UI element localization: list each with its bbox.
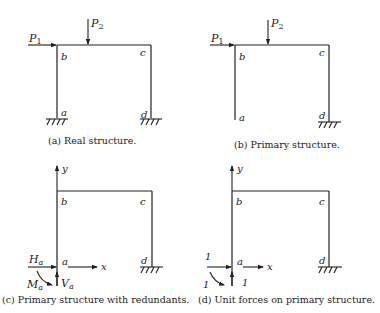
fixed-support-icon: [46, 119, 68, 125]
x-axis-label: x: [267, 261, 273, 272]
panel-d-caption: (d) Unit forces on primary structure.: [198, 294, 375, 305]
panel-d-unit-forces: y x 1 1 1 b c a d (d) Unit forces on pri…: [198, 163, 375, 305]
node-b-label: b: [239, 51, 245, 62]
redundant-h-label: Ha: [28, 253, 44, 267]
panel-b-primary-structure: P1 P2 b c a d (b) Primary structure.: [210, 17, 341, 150]
x-axis-label: x: [101, 261, 107, 272]
node-d-label: d: [319, 110, 325, 121]
load-p1-label: P1: [210, 32, 224, 46]
node-a-label: a: [61, 107, 67, 118]
load-p2-label: P2: [270, 17, 284, 31]
unit-v-label: 1: [242, 277, 248, 288]
panel-c-redundants: y x Ha Va Ma b c a d (c) Primary structu…: [2, 163, 189, 305]
y-axis-label: y: [236, 163, 243, 174]
node-a-label: a: [239, 112, 245, 123]
unit-m-label: 1: [203, 279, 209, 290]
panel-a-real-structure: P1 P2 b c a d (a) Real structure.: [28, 17, 162, 146]
node-c-label: c: [140, 196, 146, 207]
node-d-label: d: [141, 109, 147, 120]
node-b-label: b: [61, 196, 67, 207]
frame-members: [232, 191, 329, 286]
node-b-label: b: [236, 196, 242, 207]
node-a-label: a: [237, 256, 243, 267]
redundant-m-label: Ma: [26, 278, 43, 292]
panel-b-caption: (b) Primary structure.: [234, 139, 340, 150]
frame-members: [57, 45, 151, 118]
frame-members: [235, 45, 329, 122]
node-c-label: c: [319, 47, 325, 58]
load-p1-label: P1: [28, 32, 42, 46]
node-d-label: d: [141, 255, 147, 266]
panel-c-caption: (c) Primary structure with redundants.: [2, 294, 189, 305]
unit-m-arrow-icon: [210, 272, 224, 285]
frame-diagram: P1 P2 b c a d (a) Real structure. P1 P2 …: [0, 0, 380, 313]
unit-h-label: 1: [205, 251, 211, 262]
node-a-label: a: [62, 256, 68, 267]
redundant-v-label: Va: [61, 277, 74, 291]
fixed-support-icon: [140, 267, 163, 273]
y-axis-label: y: [61, 163, 68, 174]
node-d-label: d: [319, 255, 325, 266]
panel-a-caption: (a) Real structure.: [48, 135, 136, 146]
node-c-label: c: [140, 47, 146, 58]
fixed-support-icon: [318, 122, 341, 128]
node-c-label: c: [319, 196, 325, 207]
node-b-label: b: [61, 51, 67, 62]
fixed-support-icon: [318, 267, 342, 273]
load-p2-label: P2: [90, 17, 104, 31]
